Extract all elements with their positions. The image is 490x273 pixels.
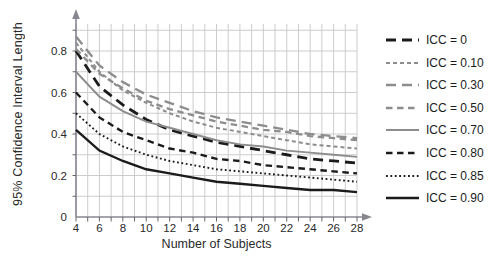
legend: ICC = 0ICC = 0.10ICC = 0.30ICC = 0.50ICC… bbox=[386, 33, 484, 205]
x-tick-label: 20 bbox=[257, 222, 270, 234]
x-tick-label: 6 bbox=[96, 222, 102, 234]
x-tick-label: 10 bbox=[140, 222, 153, 234]
y-tick-label: 0.2 bbox=[51, 170, 67, 182]
legend-item: ICC = 0.80 bbox=[386, 146, 484, 160]
legend-item: ICC = 0.70 bbox=[386, 123, 484, 137]
x-tick-label: 16 bbox=[210, 222, 223, 234]
legend-label: ICC = 0.50 bbox=[426, 101, 484, 115]
legend-label: ICC = 0.70 bbox=[426, 123, 484, 137]
x-tick-labels: 46810121416182022242628 bbox=[73, 222, 364, 234]
x-tick-label: 22 bbox=[280, 222, 293, 234]
x-tick-label: 4 bbox=[73, 222, 80, 234]
icc-ci-length-chart: 95% Confidence Interval Length 468101214… bbox=[0, 0, 490, 273]
x-tick-label: 18 bbox=[234, 222, 247, 234]
x-axis-arrow bbox=[362, 213, 372, 221]
legend-label: ICC = 0.80 bbox=[426, 146, 484, 160]
x-tick-label: 24 bbox=[304, 222, 317, 234]
legend-label: ICC = 0.85 bbox=[426, 169, 484, 183]
y-tick-label: 0.6 bbox=[51, 87, 67, 99]
legend-label: ICC = 0.90 bbox=[426, 191, 484, 205]
legend-item: ICC = 0.30 bbox=[386, 78, 484, 92]
y-tick-label: 0.8 bbox=[51, 45, 67, 57]
legend-item: ICC = 0.50 bbox=[386, 101, 484, 115]
legend-label: ICC = 0 bbox=[426, 33, 467, 47]
legend-label: ICC = 0.30 bbox=[426, 78, 484, 92]
x-tick-label: 28 bbox=[351, 222, 364, 234]
legend-swatch bbox=[386, 34, 419, 46]
legend-item: ICC = 0.10 bbox=[386, 56, 484, 70]
legend-swatch bbox=[386, 147, 419, 159]
y-tick-label: 0 bbox=[61, 211, 67, 223]
legend-swatch bbox=[386, 170, 419, 182]
x-tick-label: 26 bbox=[327, 222, 340, 234]
legend-swatch bbox=[386, 124, 419, 136]
legend-swatch bbox=[386, 79, 419, 91]
x-tick-label: 8 bbox=[120, 222, 126, 234]
legend-item: ICC = 0.90 bbox=[386, 191, 484, 205]
x-tick-label: 14 bbox=[187, 222, 200, 234]
legend-item: ICC = 0 bbox=[386, 33, 484, 47]
legend-label: ICC = 0.10 bbox=[426, 56, 484, 70]
x-axis-title: Number of Subjects bbox=[76, 237, 357, 251]
y-tick-labels: 00.20.40.60.8 bbox=[51, 45, 68, 223]
legend-swatch bbox=[386, 192, 419, 204]
legend-swatch bbox=[386, 102, 419, 114]
x-tick-label: 12 bbox=[163, 222, 176, 234]
y-tick-label: 0.4 bbox=[51, 128, 68, 140]
legend-item: ICC = 0.85 bbox=[386, 169, 484, 183]
tick-marks bbox=[73, 30, 358, 221]
legend-swatch bbox=[386, 57, 419, 69]
plot-grid bbox=[76, 24, 357, 217]
y-axis-arrow bbox=[72, 9, 80, 19]
